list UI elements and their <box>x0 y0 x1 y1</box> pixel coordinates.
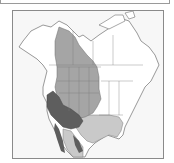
map-graphic <box>13 11 163 158</box>
range-map <box>12 10 164 159</box>
top-panel <box>0 0 170 4</box>
